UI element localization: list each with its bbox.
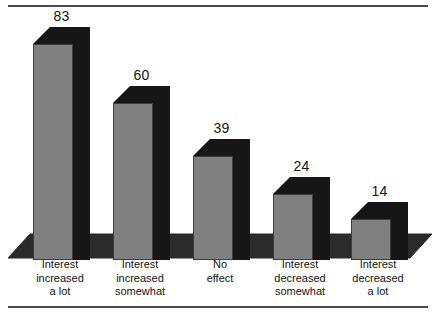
category-label-line: effect bbox=[174, 272, 266, 286]
category-label-line: No bbox=[174, 258, 266, 272]
bottom-divider-rule bbox=[8, 306, 428, 308]
bar-chart-figure: 83 60 39 24 14 I bbox=[0, 0, 440, 320]
bar-column[interactable] bbox=[193, 156, 233, 260]
bar-side-face bbox=[73, 44, 90, 260]
category-label: Interest increased somewhat bbox=[94, 258, 186, 299]
category-label-line: a lot bbox=[332, 285, 424, 299]
bar-front-face bbox=[351, 219, 391, 260]
category-axis-labels: Interest increased a lot Interest increa… bbox=[0, 258, 440, 304]
bar-value-label: 14 bbox=[351, 184, 408, 198]
bar-top-face bbox=[33, 27, 90, 44]
bar-top-face bbox=[193, 139, 250, 156]
bar-top-face bbox=[351, 202, 408, 219]
bar-front-face bbox=[193, 156, 233, 260]
category-label-line: somewhat bbox=[94, 285, 186, 299]
bar-side-face bbox=[233, 156, 250, 260]
category-label: No effect bbox=[174, 258, 266, 285]
top-divider-rule bbox=[8, 5, 428, 7]
category-label-line: increased bbox=[14, 272, 106, 286]
category-label: Interest decreased a lot bbox=[332, 258, 424, 299]
bar-top-face bbox=[113, 86, 170, 103]
category-label-line: decreased bbox=[332, 272, 424, 286]
chart-plot-area: 83 60 39 24 14 bbox=[0, 8, 440, 260]
bar-top-face bbox=[273, 177, 330, 194]
bar-front-face bbox=[33, 44, 73, 260]
bar-value-label: 39 bbox=[193, 121, 250, 135]
bar-column[interactable] bbox=[351, 219, 391, 260]
category-label-line: a lot bbox=[14, 285, 106, 299]
bar-front-face bbox=[273, 194, 313, 260]
bar-value-label: 60 bbox=[113, 68, 170, 82]
bar-column[interactable] bbox=[273, 194, 313, 260]
bar-column[interactable] bbox=[113, 103, 153, 260]
bar-value-label: 24 bbox=[273, 159, 330, 173]
bar-side-face bbox=[391, 219, 408, 260]
bar-value-label: 83 bbox=[33, 9, 90, 23]
bar-side-face bbox=[313, 194, 330, 260]
category-label-line: increased bbox=[94, 272, 186, 286]
bar-front-face bbox=[113, 103, 153, 260]
category-label-line: Interest bbox=[14, 258, 106, 272]
bar-column[interactable] bbox=[33, 44, 73, 260]
bar-side-face bbox=[153, 103, 170, 260]
category-label-line: Interest bbox=[332, 258, 424, 272]
category-label-line: Interest bbox=[94, 258, 186, 272]
category-label: Interest increased a lot bbox=[14, 258, 106, 299]
